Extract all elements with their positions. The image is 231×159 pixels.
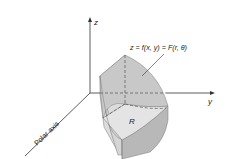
- z-axis: [88, 17, 92, 93]
- surface-equation-label: z = f(x, y) = F(r, θ): [129, 43, 187, 52]
- y-axis-label: y: [207, 97, 213, 106]
- surface-leader-line: [142, 54, 164, 76]
- z-axis-label: z: [93, 18, 98, 27]
- region-label: R: [129, 117, 135, 126]
- polar-axis-label: Polar axis: [32, 119, 61, 148]
- polar-solid-diagram: z y z = f(x, y) = F(r, θ) R Polar axis: [0, 0, 231, 159]
